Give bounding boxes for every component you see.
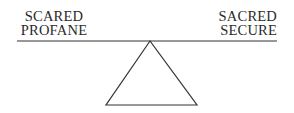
fulcrum-triangle (106, 41, 197, 105)
balance-diagram (0, 0, 294, 113)
